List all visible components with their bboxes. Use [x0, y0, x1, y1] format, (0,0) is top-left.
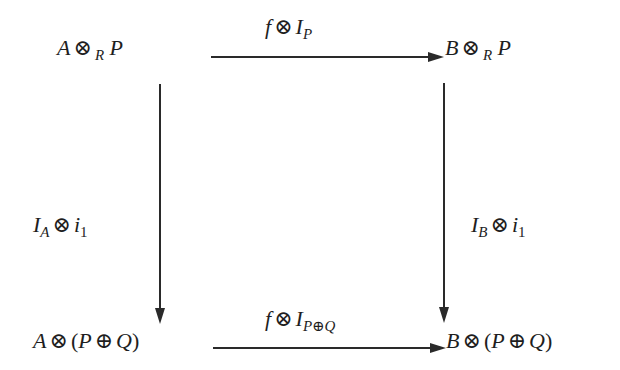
arrow-top-shaft — [211, 56, 431, 58]
label-top-arrow: f⊗IP — [265, 16, 312, 38]
tensor-symbol: ⊗ — [488, 212, 512, 237]
identity-symbol: I — [296, 306, 303, 331]
node-top-left: A⊗R P — [57, 37, 123, 59]
node-symbol: B — [445, 35, 458, 60]
subscript: R — [483, 47, 492, 63]
tensor-symbol: ⊗ — [458, 35, 482, 60]
node-symbol: Q — [116, 328, 132, 353]
node-symbol: P — [491, 328, 504, 353]
label-bottom-arrow: f⊗IP⊕Q — [265, 308, 335, 330]
subscript: 1 — [80, 224, 88, 240]
tensor-symbol: ⊗ — [70, 35, 94, 60]
arrow-left-shaft — [159, 84, 161, 310]
subscript: B — [478, 224, 487, 240]
tensor-symbol: ⊗ — [271, 306, 295, 331]
paren: ) — [132, 328, 139, 353]
label-right-arrow: IB⊗i1 — [471, 214, 526, 236]
direct-sum-symbol: ⊕ — [505, 328, 529, 353]
commutative-diagram: A⊗R P B⊗R P A⊗(P⊕Q) B⊗(P⊕Q) f⊗IP f⊗IP⊕Q … — [0, 0, 620, 370]
tensor-symbol: ⊗ — [271, 14, 295, 39]
arrow-bottom-shaft — [213, 347, 433, 349]
node-symbol: P — [110, 35, 123, 60]
tensor-symbol: ⊗ — [459, 328, 483, 353]
node-symbol: P — [498, 35, 511, 60]
node-symbol: B — [446, 328, 459, 353]
subscript: 1 — [518, 224, 526, 240]
node-top-right: B⊗R P — [445, 37, 511, 59]
node-bottom-right: B⊗(P⊕Q) — [446, 330, 552, 352]
tensor-symbol: ⊗ — [50, 212, 74, 237]
arrowhead-right-icon — [430, 343, 446, 353]
direct-sum-symbol: ⊕ — [92, 328, 116, 353]
tensor-symbol: ⊗ — [46, 328, 70, 353]
subscript: R — [95, 47, 104, 63]
node-bottom-left: A⊗(P⊕Q) — [33, 330, 139, 352]
node-symbol: A — [57, 35, 70, 60]
subscript: P⊕Q — [303, 318, 336, 334]
arrowhead-down-icon — [439, 307, 449, 323]
identity-symbol: I — [296, 14, 303, 39]
subscript: P — [303, 26, 312, 42]
label-left-arrow: IA⊗i1 — [33, 214, 88, 236]
paren: ) — [545, 328, 552, 353]
node-symbol: P — [78, 328, 91, 353]
arrowhead-down-icon — [155, 308, 165, 324]
subscript: A — [40, 224, 49, 240]
node-symbol: Q — [529, 328, 545, 353]
node-symbol: A — [33, 328, 46, 353]
arrow-right-shaft — [443, 83, 445, 309]
arrowhead-right-icon — [428, 52, 444, 62]
